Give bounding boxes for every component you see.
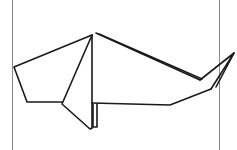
origami-diagram: origami whale: [0, 0, 237, 150]
body-bottom-edge: [92, 89, 211, 105]
tail-fold-line: [216, 53, 234, 87]
back-inner-edge: [99, 34, 202, 79]
whale-drawing: [0, 0, 237, 150]
fin-flap: [62, 35, 92, 129]
leg-fold: [93, 104, 97, 127]
head-outline: [14, 35, 92, 102]
